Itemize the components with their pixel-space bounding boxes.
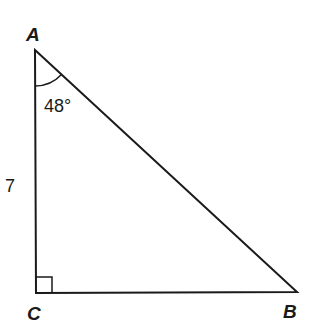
vertex-label-b: B [283, 301, 297, 322]
side-label-ac: 7 [5, 176, 15, 196]
angle-label-a: 48° [44, 96, 71, 116]
triangle-diagram: A C B 48° 7 [0, 0, 323, 336]
angle-arc-a [35, 75, 61, 87]
vertex-label-c: C [27, 303, 41, 324]
right-angle-marker [36, 277, 52, 293]
triangle-abc [35, 50, 297, 293]
vertex-label-a: A [25, 24, 40, 45]
